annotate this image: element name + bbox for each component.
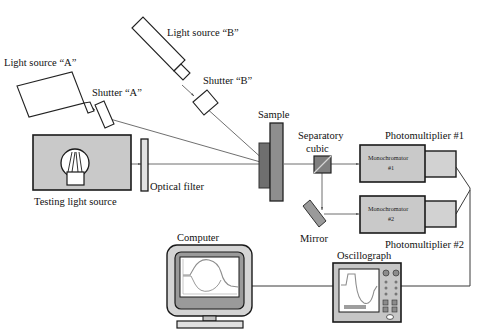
photomultiplier-2-label: Photomultiplier #2 [385,239,464,250]
sample-label: Sample [258,109,290,120]
separatory-cubic-label-line1: Separatory [298,130,344,141]
testing-light-source-label: Testing light source [34,196,117,207]
monochromator-1-label-line1: Monochromator [368,154,408,161]
oscillograph-button-4[interactable] [392,307,397,312]
wire-pm1-to-junction [456,167,470,188]
light-source-b-label: Light source “B” [167,27,239,38]
sample[interactable] [259,123,283,201]
photomultiplier-1[interactable] [424,151,456,177]
photomultiplier-2-body [424,201,456,227]
oscillograph-knob-1[interactable] [383,270,389,276]
photomultiplier-1-body [424,151,456,177]
monochromator-2-label-line1: Monochromator [368,205,408,212]
shutter-b[interactable] [193,90,218,115]
light-source-a-label: Light source “A” [4,57,77,68]
oscillograph-indicator-3 [385,287,388,290]
light-source-a-nozzle [84,102,94,113]
oscillograph-button-3[interactable] [383,307,388,312]
shutter-b-slab [193,90,218,115]
oscillograph-screen-footer [344,305,366,309]
light-source-a[interactable] [17,72,94,117]
mirror[interactable] [303,200,326,227]
mirror-label: Mirror [300,233,328,244]
photomultiplier-1-label: Photomultiplier #1 [385,130,464,141]
oscillograph-indicator-4 [395,287,398,290]
computer-stand-neck [203,316,216,321]
beam-shutter-b-to-sample [204,106,265,161]
separatory-cubic-label-line2: cubic [306,143,329,154]
shutter-b-label: Shutter “B” [203,75,253,86]
oscillograph-indicator-1 [385,281,388,284]
light-source-b-body [132,17,185,71]
testing-light-source[interactable] [33,135,131,190]
light-source-a-body [17,72,84,117]
sample-front-slab [270,123,283,201]
diagram-canvas: Light source “A” Shutter “A” Light sourc… [0,0,488,330]
oscillograph-indicator-6 [395,293,398,296]
computer-label: Computer [177,232,219,243]
oscillograph-power-knob[interactable] [387,315,394,320]
optical-filter-slab [141,139,148,191]
oscillograph-knob-2[interactable] [393,270,399,276]
beam-source-b-to-shutter-b [182,85,194,96]
monochromator-1-label-line2: #1 [388,164,394,171]
wire-pm2-to-junction [456,190,470,214]
computer[interactable] [167,245,252,328]
monochromator-2[interactable]: Monochromator #2 [360,196,425,233]
shutter-a-slab [95,101,114,128]
optical-setup-diagram: Light source “A” Shutter “A” Light sourc… [0,0,488,330]
shutter-a[interactable] [95,101,114,128]
separatory-cubic[interactable] [314,156,331,173]
optical-filter-label: Optical filter [150,181,204,192]
bulb-base-icon [67,172,84,185]
sample-back-slab [259,143,270,188]
computer-stand-base [177,321,243,328]
monochromator-2-label-line2: #2 [388,215,394,222]
monochromator-1[interactable]: Monochromator #1 [360,145,425,182]
mirror-surface [303,200,326,227]
oscillograph-button-2[interactable] [392,300,397,305]
shutter-a-label: Shutter “A” [92,87,142,98]
oscillograph-indicator-2 [395,281,398,284]
oscillograph-button-1[interactable] [383,300,388,305]
photomultiplier-2[interactable] [424,201,456,227]
optical-filter[interactable] [141,139,148,191]
oscillograph[interactable] [333,263,401,322]
oscillograph-label: Oscillograph [337,250,392,261]
oscillograph-indicator-5 [385,293,388,296]
